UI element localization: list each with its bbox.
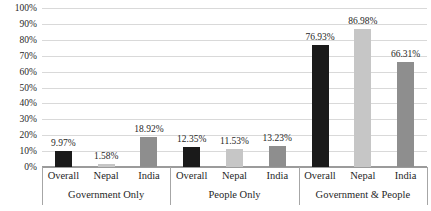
category-label: India [384,170,427,182]
category-label: India [128,170,171,182]
bar-nepal-1 [98,164,115,167]
category-label: Nepal [341,170,384,182]
bar-nepal-2 [226,149,243,167]
y-axis-tick-label: 20% [0,130,37,140]
bar-value-label: 9.97% [38,138,88,149]
group-separator-line [427,167,428,205]
y-axis-tick-label: 100% [0,3,37,13]
category-label: Nepal [213,170,256,182]
y-axis-tick-label: 50% [0,83,37,93]
bar-value-label: 86.98% [338,16,388,27]
y-axis-tick-label: 60% [0,67,37,77]
group-separator-line [42,167,43,205]
category-label: India [256,170,299,182]
y-axis-tick-label: 0% [0,162,37,172]
bar-india-2 [269,146,286,167]
category-label: Nepal [85,170,128,182]
y-axis-tick-label: 10% [0,146,37,156]
bar-value-label: 66.31% [381,49,431,60]
bar-overall-1 [55,151,72,167]
bar-india-3 [397,62,414,167]
category-label: Overall [42,170,85,182]
bar-chart: 0%10%20%30%40%50%60%70%80%90%100% 9.97%1… [0,0,431,211]
y-axis-tick-label: 90% [0,19,37,29]
gridline [42,8,427,9]
bar-value-label: 13.23% [252,133,302,144]
y-axis-tick-label: 80% [0,35,37,45]
bar-value-label: 76.93% [295,32,345,43]
bar-overall-3 [312,45,329,167]
group-label: Government Only [42,189,170,201]
group-label: People Only [170,189,298,201]
y-axis-tick-label: 70% [0,51,37,61]
y-axis-tick-label: 40% [0,98,37,108]
group-separator-line [299,167,300,205]
category-label: Overall [170,170,213,182]
bar-value-label: 1.58% [81,151,131,162]
category-label: Overall [299,170,342,182]
group-separator-line [170,167,171,205]
bar-india-1 [140,137,157,167]
group-label: Government & People [299,189,427,201]
y-axis-tick-label: 30% [0,114,37,124]
bar-nepal-3 [354,29,371,167]
bar-overall-2 [183,147,200,167]
